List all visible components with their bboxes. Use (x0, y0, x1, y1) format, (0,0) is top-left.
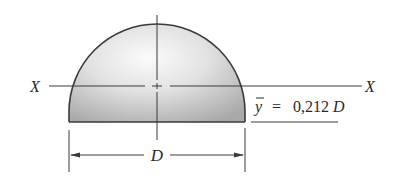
centroid-variable: D (332, 98, 345, 115)
centroid-coefficient: 0,212 (293, 98, 329, 115)
arrow-right-icon (234, 153, 244, 158)
semicircle-centroid-diagram: X X y = 0,212 D D (0, 0, 403, 181)
diameter-label: D (150, 146, 164, 165)
x-axis-right-label: X (364, 78, 376, 95)
x-axis-left-label: X (29, 78, 41, 95)
arrow-left-icon (70, 153, 80, 158)
equals-sign: = (272, 98, 281, 115)
y-bar-symbol: y (253, 98, 263, 116)
centroid-distance-label: y = 0,212 D (253, 98, 345, 116)
